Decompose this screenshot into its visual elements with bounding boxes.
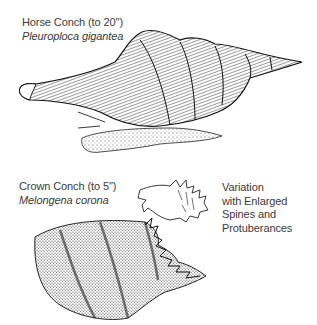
- variation-line: Spines and: [222, 208, 292, 222]
- variation-line: Protuberances: [222, 222, 292, 236]
- variation-line: with Enlarged: [222, 195, 292, 209]
- crown-conch-shell: [35, 221, 206, 320]
- horse-conch-scientific-name: Pleuroploca gigantea: [22, 30, 123, 44]
- horse-conch-foot: [82, 128, 222, 152]
- horse-conch-shell: [19, 30, 302, 126]
- variation-line: Variation: [222, 181, 292, 195]
- variation-outline: [138, 180, 208, 222]
- crown-conch-common-name: Crown Conch (to 5"): [19, 180, 116, 194]
- horse-conch-common-name: Horse Conch (to 20"): [22, 16, 123, 30]
- crown-conch-scientific-name: Melongena corona: [19, 194, 109, 208]
- horse-conch-illustration: [0, 0, 317, 325]
- variation-caption: Variation with Enlarged Spines and Protu…: [222, 181, 292, 235]
